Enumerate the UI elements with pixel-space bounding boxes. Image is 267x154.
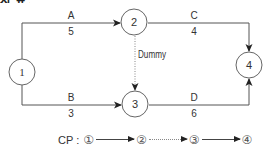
node-1: 1	[9, 59, 35, 85]
activity-b-name: B	[68, 92, 75, 103]
node-2-label: 2	[131, 16, 137, 28]
cp-arrow-solid-icon	[202, 139, 240, 141]
activity-c-duration: 4	[191, 26, 197, 37]
cp-arrow-dotted-icon	[149, 139, 187, 141]
dummy-label: Dummy	[138, 49, 166, 60]
cp-node-2: ②	[136, 133, 147, 147]
dummy-activity: Dummy	[135, 36, 166, 90]
activity-c: C 4	[148, 10, 249, 51]
cp-node-3: ③	[189, 133, 200, 147]
cp-arrow-solid-icon	[96, 139, 134, 141]
critical-path-label: CP :	[58, 134, 79, 146]
node-3-label: 3	[132, 98, 138, 110]
node-4-label: 4	[246, 59, 252, 71]
activity-a-duration: 5	[68, 26, 74, 37]
network-diagram: A 5 B 3 C 4 D 6 Dummy 1 2 3 4	[0, 0, 267, 154]
node-4: 4	[236, 52, 262, 78]
node-3: 3	[122, 91, 148, 117]
activity-a: A 5	[22, 10, 120, 59]
cp-node-4: ④	[242, 133, 253, 147]
node-2: 2	[121, 9, 147, 35]
node-1-label: 1	[19, 66, 25, 78]
critical-path: CP : ① ② ③ ④	[58, 132, 252, 148]
activity-d: D 6	[149, 79, 249, 119]
activity-d-duration: 6	[191, 108, 197, 119]
activity-d-name: D	[190, 92, 197, 103]
activity-b-duration: 3	[68, 108, 74, 119]
activity-a-name: A	[68, 10, 75, 21]
activity-b: B 3	[22, 85, 121, 119]
activity-c-name: C	[190, 10, 197, 21]
cp-node-1: ①	[83, 133, 94, 147]
